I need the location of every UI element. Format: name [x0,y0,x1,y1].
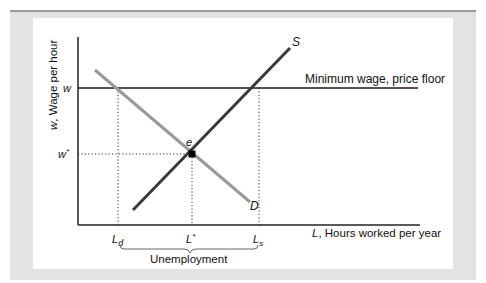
unemployment-label: Unemployment [150,253,228,265]
supply-curve [133,48,290,210]
ld-tick-label: Ld [112,233,124,248]
w-tick-label: w [63,82,72,94]
equilibrium-label: e [186,136,192,148]
unemployment-brace [120,245,258,253]
lstar-tick-label: L* [186,232,196,245]
x-axis-title: L, Hours worked per year [312,227,441,239]
wstar-tick-label: w* [58,147,70,160]
supply-label: S [292,35,300,49]
min-wage-label: Minimum wage, price floor [305,72,445,86]
y-axis-title: w, Wage per hour [47,39,59,130]
minimum-wage-diagram: S D Minimum wage, price floor e w w* Ld … [0,0,486,283]
demand-label: D [250,199,259,213]
equilibrium-point [189,151,196,158]
